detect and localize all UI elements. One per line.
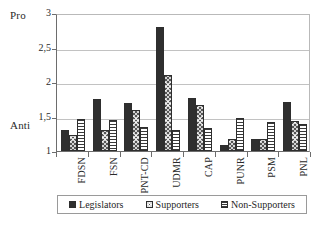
bar-group (216, 118, 248, 151)
bar (228, 139, 236, 151)
bar (291, 121, 299, 151)
legend-swatch-icon (221, 201, 228, 208)
bar (188, 98, 196, 151)
bar (196, 105, 204, 151)
bar (69, 135, 77, 151)
x-tick-mark (56, 152, 57, 157)
bar (283, 102, 291, 151)
chart-legend: LegislatorsSupportersNon-Supporters (57, 195, 307, 214)
x-axis-label: CAP (203, 157, 214, 177)
bar (109, 120, 117, 151)
legend-label: Legislators (79, 199, 123, 210)
bar-group (89, 99, 121, 151)
bar-group (152, 27, 184, 151)
legend-swatch-icon (69, 201, 76, 208)
x-axis-label: PSM (266, 157, 277, 178)
bar (267, 122, 275, 151)
legend-swatch-icon (146, 201, 153, 208)
x-tick-mark (183, 152, 184, 157)
bar (77, 119, 85, 151)
x-axis-label: UDMR (171, 157, 182, 188)
bar (299, 124, 307, 151)
y-tick-label: 2,5 (0, 42, 56, 53)
bar-group (57, 119, 89, 151)
x-axis-label: FDSN (76, 157, 87, 183)
bar (93, 99, 101, 151)
x-tick-mark (88, 152, 89, 157)
bar (236, 118, 244, 151)
x-tick-mark (120, 152, 121, 157)
x-tick-mark (247, 152, 248, 157)
plot-area (56, 14, 310, 152)
legend-item: Supporters (146, 199, 199, 210)
bar (220, 145, 228, 151)
legend-label: Non-Supporters (231, 199, 295, 210)
y-tick-label: 2 (0, 76, 56, 87)
bar (204, 128, 212, 151)
x-tick-mark (215, 152, 216, 157)
x-tick-mark (310, 152, 311, 157)
bar (140, 127, 148, 151)
bar-group (279, 102, 311, 151)
bar (101, 130, 109, 151)
legend-item: Non-Supporters (221, 199, 295, 210)
bar-group (184, 98, 216, 151)
bar-group (121, 103, 153, 151)
x-axis-label: PUNR (235, 157, 246, 184)
bar-chart: Pro Anti 11,522,53 FDSNFSNPNT-CDUDMRCAPP… (0, 0, 328, 227)
y-tick-label: 1,5 (0, 111, 56, 122)
legend-item: Legislators (69, 199, 123, 210)
bar (132, 110, 140, 151)
x-axis-label: PNL (298, 157, 309, 177)
bar-group (248, 122, 280, 151)
bar (164, 75, 172, 151)
x-tick-mark (151, 152, 152, 157)
x-tick-mark (278, 152, 279, 157)
bar (124, 103, 132, 151)
y-tick-label: 1 (0, 145, 56, 156)
bar (259, 139, 267, 151)
bar (251, 139, 259, 151)
bar (61, 130, 69, 151)
x-axis-label: FSN (108, 157, 119, 176)
bar (172, 130, 180, 151)
bar (156, 27, 164, 151)
y-tick-label: 3 (0, 7, 56, 18)
x-axis-label: PNT-CD (139, 157, 150, 193)
legend-label: Supporters (156, 199, 199, 210)
